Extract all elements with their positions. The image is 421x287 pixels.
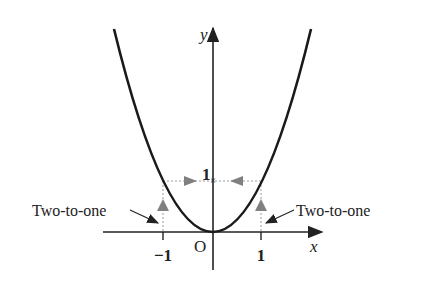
- arrow-left-annotation: [130, 210, 158, 223]
- tick-label-x-pos: 1: [257, 246, 266, 265]
- parabola-diagram: × y x O −1 1 1 Two-to-one Two-to-one: [0, 0, 421, 287]
- cross-mark-icon: ×: [210, 175, 216, 186]
- y-axis-label: y: [198, 25, 208, 44]
- annotation-two-to-one-left: Two-to-one: [32, 202, 106, 219]
- right-pointing-triangle-icon: [184, 176, 197, 186]
- x-axis-label: x: [309, 237, 318, 256]
- arrow-right-annotation: [266, 210, 294, 223]
- origin-label: O: [194, 237, 206, 256]
- left-pointing-triangle-icon: [230, 176, 243, 186]
- tick-label-x-neg: −1: [154, 246, 172, 265]
- up-triangle-left-icon: [157, 199, 169, 211]
- up-triangle-right-icon: [255, 199, 267, 211]
- annotation-two-to-one-right: Two-to-one: [296, 202, 370, 219]
- tick-label-y: 1: [202, 165, 211, 184]
